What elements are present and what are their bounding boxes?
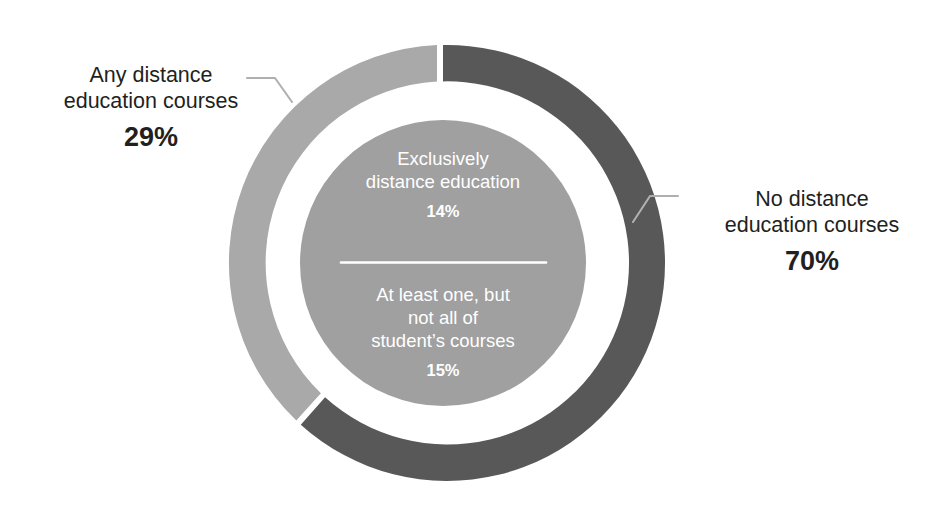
callout-no-distance-education[interactable]: No distance education courses 70% xyxy=(690,186,934,278)
callout-any-distance-education[interactable]: Any distance education courses 29% xyxy=(22,62,280,154)
callout-left-value: 29% xyxy=(22,120,280,154)
inner-top-line1: Exclusively xyxy=(303,147,583,170)
inner-bottom-line1: At least one, but xyxy=(303,283,583,306)
callout-left-line2: education courses xyxy=(22,88,280,114)
inner-top-line2: distance education xyxy=(303,170,583,193)
inner-bottom-line3: student’s courses xyxy=(303,329,583,352)
chart-root: Any distance education courses 29% No di… xyxy=(0,0,942,520)
callout-right-line2: education courses xyxy=(690,212,934,238)
inner-bottom-line2: not all of xyxy=(303,306,583,329)
inner-label-exclusively-distance-education[interactable]: Exclusively distance education 14% xyxy=(303,147,583,222)
inner-bottom-value: 15% xyxy=(303,360,583,381)
inner-label-at-least-one-not-all[interactable]: At least one, but not all of student’s c… xyxy=(303,283,583,381)
callout-right-line1: No distance xyxy=(690,186,934,212)
inner-top-value: 14% xyxy=(303,201,583,222)
callout-left-line1: Any distance xyxy=(22,62,280,88)
callout-right-value: 70% xyxy=(690,244,934,278)
